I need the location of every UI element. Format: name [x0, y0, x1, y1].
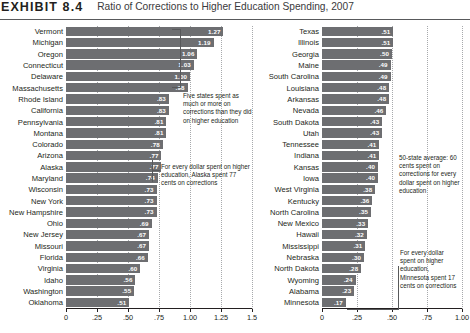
- bar: [66, 162, 161, 171]
- bar-row: South Dakota.43: [255, 116, 470, 127]
- bar-row: Oklahoma.51: [0, 297, 258, 308]
- bar-plot-area: .78: [66, 139, 252, 150]
- bar-category-label: Nebraska: [255, 253, 322, 262]
- bar-value-label: .81: [155, 118, 167, 125]
- bar-value-label: .73: [145, 186, 157, 193]
- bar-row: New York.73: [0, 195, 258, 206]
- bar-row: Connecticut1.03: [0, 60, 258, 71]
- page-title: Ratio of Corrections to Higher Education…: [97, 0, 354, 14]
- axis-line-left: 0.25.50.751.001.251.5: [66, 308, 252, 323]
- bar-category-label: Montana: [0, 129, 66, 138]
- bar-category-label: North Carolina: [255, 208, 322, 217]
- bar-category-label: South Dakota: [255, 118, 322, 127]
- bar-category-label: Pennsylvania: [0, 118, 66, 127]
- bar-row: Maine.49: [255, 60, 470, 71]
- bar-category-label: New Mexico: [255, 219, 322, 228]
- bar-row: Virginia.60: [0, 263, 258, 274]
- bar-value-label: .66: [136, 254, 148, 261]
- bar: [66, 106, 169, 115]
- bar-row: Louisiana.48: [255, 82, 470, 93]
- bar: [66, 185, 157, 194]
- bar-value-label: .24: [344, 276, 356, 283]
- bar: [66, 207, 157, 216]
- bar-value-label: .78: [151, 141, 163, 148]
- axis-tick-label: .50: [387, 313, 397, 322]
- bar-plot-area: .49: [322, 71, 462, 82]
- bar: [66, 196, 157, 205]
- bar-value-label: .60: [128, 265, 140, 272]
- bar-row: New Hampshire.73: [0, 207, 258, 218]
- bar-category-label: Wisconsin: [0, 185, 66, 194]
- bar-category-label: Oklahoma: [0, 298, 66, 307]
- bar-row: Delaware1.00: [0, 71, 258, 82]
- bar-plot-area: .67: [66, 241, 252, 252]
- bar-plot-area: .51: [322, 37, 462, 48]
- bar-category-label: Maine: [255, 61, 322, 70]
- bar-row: Missouri.67: [0, 241, 258, 252]
- bar-row: Montana.81: [0, 128, 258, 139]
- annotation-five-states: Five states spent as much or more on cor…: [183, 92, 255, 125]
- bar-category-label: Colorado: [0, 140, 66, 149]
- bar-category-label: Maryland: [0, 174, 66, 183]
- bar-plot-area: .67: [66, 229, 252, 240]
- bar-row: Arizona.77: [0, 150, 258, 161]
- bar-row: Georgia.50: [255, 49, 470, 60]
- bar-category-label: Louisiana: [255, 84, 322, 93]
- bar-value-label: .67: [137, 242, 149, 249]
- bar-category-label: California: [0, 106, 66, 115]
- bar-category-label: Indiana: [255, 151, 322, 160]
- bar-plot-area: .51: [322, 26, 462, 37]
- bar-plot-area: .35: [322, 207, 462, 218]
- bar-value-label: .31: [353, 242, 365, 249]
- bar-category-label: Kentucky: [255, 197, 322, 206]
- bar-value-label: .30: [352, 254, 364, 261]
- bar-row: Washington.55: [0, 286, 258, 297]
- bar-value-label: .55: [122, 287, 134, 294]
- bar-plot-area: 1.19: [66, 37, 252, 48]
- bar-value-label: .48: [377, 95, 389, 102]
- bar-category-label: Alabama: [255, 287, 322, 296]
- bar-plot-area: .81: [66, 128, 252, 139]
- annotation-vline-alaska: [152, 160, 153, 182]
- bar-category-label: West Virginia: [255, 185, 322, 194]
- axis-tick-label: 0: [320, 313, 324, 322]
- bar-category-label: Arizona: [0, 151, 66, 160]
- bar-plot-area: .46: [322, 105, 462, 116]
- bar-category-label: Massachusetts: [0, 84, 66, 93]
- bar-category-label: Oregon: [0, 50, 66, 59]
- bar-plot-area: .50: [322, 49, 462, 60]
- axis-tick-label: .75: [154, 313, 164, 322]
- bar-category-label: Arkansas: [255, 95, 322, 104]
- annotation-alaska: For every dollar spent on higher educati…: [161, 163, 253, 188]
- bar-value-label: .51: [381, 28, 393, 35]
- axis-tick-label: .25: [352, 313, 362, 322]
- bar-category-label: Missouri: [0, 242, 66, 251]
- axis-tick-label: 1.00: [183, 313, 197, 322]
- bar-value-label: 1.06: [182, 50, 197, 57]
- bar-row: Illinois.51: [255, 37, 470, 48]
- bar-row: Vermont1.27: [0, 26, 258, 37]
- bar-value-label: .50: [380, 50, 392, 57]
- bar-row: Utah.43: [255, 128, 470, 139]
- bar-row: North Carolina.35: [255, 207, 470, 218]
- exhibit-number: EXHIBIT 8.4: [0, 0, 83, 14]
- bar-value-label: .23: [342, 287, 354, 294]
- bar-value-label: .73: [145, 197, 157, 204]
- axis-tick-label: 0: [64, 313, 68, 322]
- bar-plot-area: 1.27: [66, 26, 252, 37]
- bar-plot-area: 1.03: [66, 60, 252, 71]
- bar-value-label: .17: [334, 299, 346, 306]
- annotation-leader-minnesota: [347, 309, 398, 310]
- bar-category-label: Iowa: [255, 174, 322, 183]
- bar-category-label: Ohio: [0, 219, 66, 228]
- bar-value-label: .69: [140, 220, 152, 227]
- bar-value-label: .43: [370, 118, 382, 125]
- bar-plot-area: .32: [322, 229, 462, 240]
- bar-row: Hawaii.32: [255, 229, 470, 240]
- bar-plot-area: .48: [322, 82, 462, 93]
- bar-value-label: .56: [124, 276, 136, 283]
- bar-category-label: Rhode Island: [0, 95, 66, 104]
- bar-category-label: Nevada: [255, 106, 322, 115]
- bar-value-label: .73: [145, 208, 157, 215]
- exhibit-header: EXHIBIT 8.4 Ratio of Corrections to High…: [0, 0, 470, 20]
